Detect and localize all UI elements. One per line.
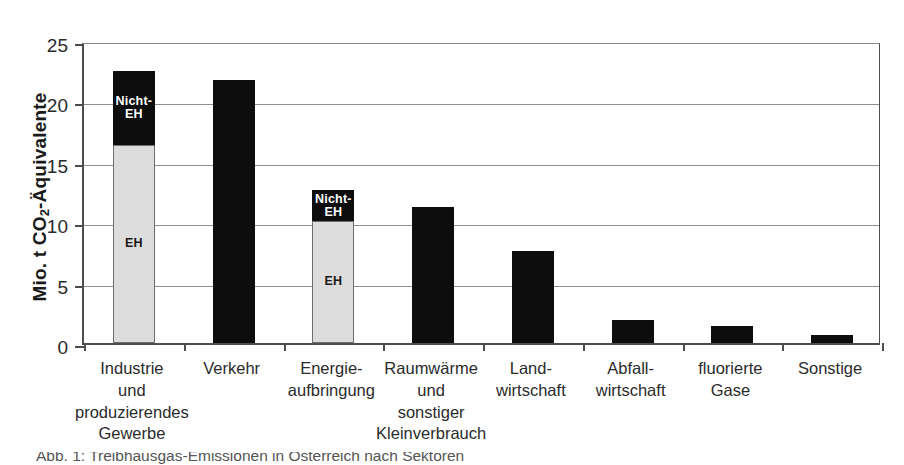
x-axis-category-label: Sonstige: [771, 358, 889, 380]
plot-area: 0510152025EHNicht-EHEHNicht-EH: [82, 43, 880, 345]
x-axis-category-label-line: Kleinverbrauch: [372, 423, 490, 445]
y-axis-title: Mio. t CO2-Äquivalente: [29, 47, 51, 347]
x-axis-tick: [782, 343, 784, 351]
y-axis-tick: 0: [75, 346, 84, 348]
y-axis-tick-label: 15: [47, 156, 68, 178]
bar-label-nicht-eh-line2: EH: [114, 108, 154, 121]
bar-label-eh: EH: [114, 237, 154, 250]
y-axis-tick-label: 10: [47, 216, 68, 238]
bar-label-nicht-eh-line1: Nicht-: [313, 193, 353, 206]
bar-segment-total[interactable]: [213, 80, 255, 343]
y-axis-tick-label: 5: [57, 277, 68, 299]
x-axis-category-label-line: produzierendes: [73, 402, 191, 424]
x-axis-tick: [483, 343, 485, 351]
y-axis-tick: 10: [75, 225, 84, 227]
bar-segment-total[interactable]: [412, 207, 454, 344]
bar-segment-total[interactable]: [711, 326, 753, 343]
y-axis-tick-label: 25: [47, 35, 68, 57]
x-axis-tick: [383, 343, 385, 351]
y-axis-tick: 20: [75, 104, 84, 106]
figure-caption-sliver: Abb. 1: Treibhausgas-Emissionen in Öster…: [36, 452, 872, 465]
x-axis-category-label-line: und: [73, 380, 191, 402]
bar[interactable]: EHNicht-EH: [113, 71, 155, 343]
x-axis-category-label-line: Gewerbe: [73, 423, 191, 445]
bar-segment-eh[interactable]: EH: [113, 145, 155, 343]
y-axis-tick: 5: [75, 286, 84, 288]
bar-label-eh: EH: [313, 275, 353, 288]
emissions-bar-chart: Mio. t CO2-Äquivalente 0510152025EHNicht…: [0, 0, 904, 465]
x-axis-tick: [583, 343, 585, 351]
bar[interactable]: [512, 251, 554, 343]
bar[interactable]: [612, 320, 654, 343]
x-axis-tick: [84, 343, 86, 351]
x-axis-tick: [284, 343, 286, 351]
x-axis-tick: [882, 343, 884, 351]
bar[interactable]: [412, 207, 454, 344]
y-axis-tick-label: 0: [57, 337, 68, 359]
bar-segment-total[interactable]: [512, 251, 554, 343]
x-axis-category-label-line: sonstiger: [372, 402, 490, 424]
x-axis-category-label-line: Gase: [672, 380, 790, 402]
bar-label-nicht-eh: Nicht-EH: [313, 193, 353, 219]
gridline: [84, 104, 879, 105]
bar-label-nicht-eh-line2: EH: [313, 206, 353, 219]
bar[interactable]: EHNicht-EH: [312, 190, 354, 343]
bar-segment-nicht-eh[interactable]: Nicht-EH: [312, 190, 354, 221]
x-axis-category-label-line: Sonstige: [771, 358, 889, 380]
bar-segment-total[interactable]: [612, 320, 654, 343]
bar[interactable]: [711, 326, 753, 343]
bar[interactable]: [811, 335, 853, 343]
bar-segment-eh[interactable]: EH: [312, 221, 354, 343]
bar-segment-total[interactable]: [811, 335, 853, 343]
bar[interactable]: [213, 80, 255, 343]
bar-label-nicht-eh: Nicht-EH: [114, 95, 154, 121]
y-axis-tick: 15: [75, 165, 84, 167]
gridline: [84, 165, 879, 166]
bar-segment-nicht-eh[interactable]: Nicht-EH: [113, 71, 155, 145]
x-axis-tick: [683, 343, 685, 351]
figure-caption-text: Abb. 1: Treibhausgas-Emissionen in Öster…: [36, 452, 464, 464]
y-axis-tick: 25: [75, 44, 84, 46]
gridline: [84, 225, 879, 226]
gridline: [84, 286, 879, 287]
x-axis-tick: [184, 343, 186, 351]
y-axis-tick-label: 20: [47, 95, 68, 117]
